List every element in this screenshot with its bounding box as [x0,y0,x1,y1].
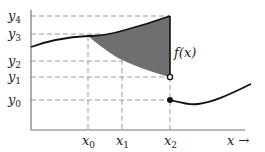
label-x1: x1 [116,133,129,150]
label-y4: y4 [7,8,21,25]
label-y0: y0 [7,92,21,109]
closed-point [167,97,173,103]
label-x2: x2 [164,133,177,150]
label-y3: y3 [7,26,21,43]
label-y1: y1 [7,69,21,86]
x-axis-label: x → [227,133,249,148]
label-x0: x0 [82,133,95,150]
label-y2: y2 [7,53,21,70]
shaded-region [88,16,170,77]
function-label: f(x) [173,45,196,60]
open-point [167,74,172,79]
curve-right [170,84,251,104]
function-diagram: y4 y3 y2 y1 y0 x0 x1 x2 x → f(x) [0,0,265,152]
